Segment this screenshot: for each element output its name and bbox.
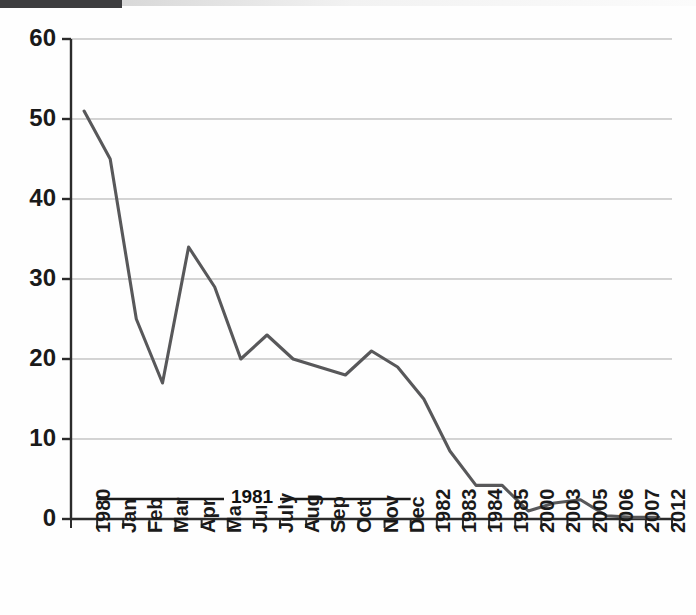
- series-bracket-label: 1981: [224, 487, 280, 506]
- x-axis-tick-label: 2005: [589, 489, 612, 534]
- x-axis-tick-label: 1985: [510, 489, 533, 534]
- x-axis-tick-label: Aug: [301, 494, 324, 533]
- x-axis-tick-label: 2007: [641, 489, 664, 534]
- x-axis-tick-label: 2006: [615, 489, 638, 534]
- y-axis-tick-label: 0: [4, 504, 56, 532]
- x-axis-tick-label: Nov: [380, 495, 403, 533]
- x-axis-tick-label: Dec: [406, 496, 429, 533]
- x-axis-tick-label: Sep: [327, 496, 350, 533]
- y-axis-tick-label: 60: [4, 24, 56, 52]
- x-axis-tick-label: 1982: [432, 489, 455, 534]
- x-axis-tick-label: Apr: [197, 499, 220, 533]
- chart-page: 0102030405060 1980JanFebMarAprMayJunJuly…: [0, 0, 696, 615]
- x-axis-tick-label: 2003: [562, 489, 585, 534]
- x-axis-tick-label: Mar: [170, 497, 193, 533]
- x-axis-tick-label: Feb: [144, 497, 167, 533]
- data-series-line: [84, 111, 659, 517]
- y-axis-tick-label: 20: [4, 344, 56, 372]
- y-axis-ticks: [62, 39, 71, 519]
- x-axis-tick-label: 2000: [536, 489, 559, 534]
- x-axis-tick-label: 1980: [92, 489, 115, 534]
- x-axis-tick-label: 2012: [667, 489, 690, 534]
- y-axis-tick-label: 50: [4, 104, 56, 132]
- x-axis-tick-label: Jan: [118, 499, 141, 533]
- x-axis-tick-label: 1984: [484, 489, 507, 534]
- y-axis-tick-label: 10: [4, 424, 56, 452]
- y-axis-tick-label: 40: [4, 184, 56, 212]
- x-axis-tick-label: 1983: [458, 489, 481, 534]
- y-axis-tick-label: 30: [4, 264, 56, 292]
- x-axis-tick-label: Oct: [353, 500, 376, 533]
